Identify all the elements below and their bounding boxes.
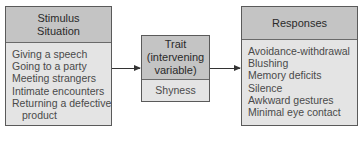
- response-item: Memory deficits: [248, 69, 357, 81]
- trait-title-line2: (intervening: [147, 51, 204, 64]
- stimulus-header: Stimulus Situation: [6, 7, 111, 43]
- trait-title-line1: Trait: [165, 38, 187, 51]
- stimulus-list: Giving a speech Going to a party Meeting…: [6, 43, 111, 121]
- response-item: Minimal eye contact: [248, 106, 357, 118]
- stimulus-item: Going to a party: [12, 60, 111, 72]
- stimulus-item: Returning a defective: [12, 97, 111, 109]
- response-item: Avoidance-withdrawal: [248, 45, 357, 57]
- stimulus-item: Meeting strangers: [12, 72, 111, 84]
- stimulus-title-line1: Stimulus: [37, 12, 79, 25]
- response-item: Awkward gestures: [248, 94, 357, 106]
- stimulus-item: Intimate encounters: [12, 85, 111, 97]
- responses-list: Avoidance-withdrawal Blushing Memory def…: [242, 40, 357, 118]
- responses-title: Responses: [272, 17, 327, 30]
- stimulus-title-line2: Situation: [37, 25, 80, 38]
- trait-title-line3: variable): [154, 64, 196, 77]
- trait-value: Shyness: [142, 80, 209, 96]
- responses-header: Responses: [242, 7, 357, 40]
- arrow-trait-to-responses: [210, 68, 240, 69]
- stimulus-situation-box: Stimulus Situation Giving a speech Going…: [5, 6, 112, 126]
- trait-box: Trait (intervening variable) Shyness: [141, 35, 210, 102]
- responses-box: Responses Avoidance-withdrawal Blushing …: [241, 6, 358, 126]
- response-item: Silence: [248, 82, 357, 94]
- arrow-stimulus-to-trait: [112, 68, 140, 69]
- trait-header: Trait (intervening variable): [142, 36, 209, 80]
- response-item: Blushing: [248, 57, 357, 69]
- stimulus-item-continuation: product: [12, 109, 111, 121]
- stimulus-item: Giving a speech: [12, 48, 111, 60]
